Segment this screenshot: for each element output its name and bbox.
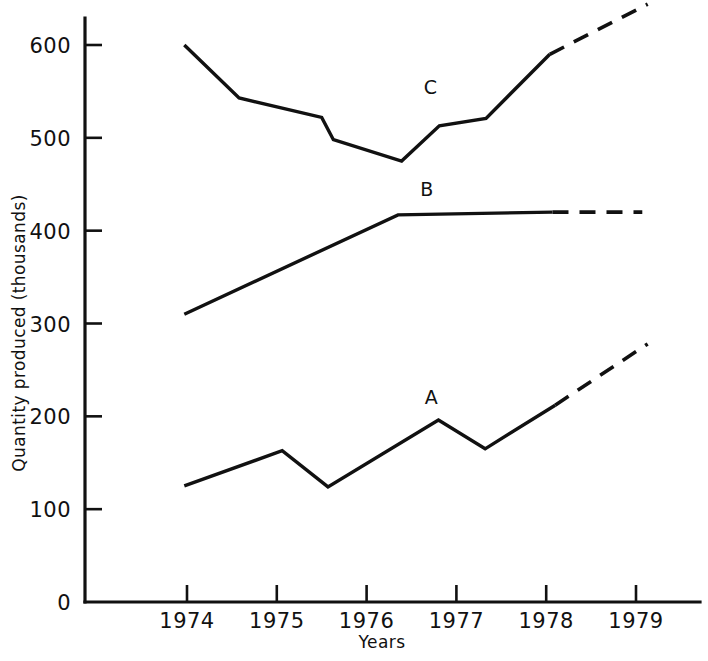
y-axis-tick-label: 0 bbox=[57, 591, 71, 615]
series-line-a bbox=[184, 405, 555, 487]
series-line-c bbox=[184, 45, 549, 161]
series-line-b bbox=[184, 212, 552, 314]
series-projection-c bbox=[550, 4, 648, 54]
y-axis-tick-label: 600 bbox=[29, 34, 71, 58]
axes-group bbox=[85, 18, 700, 602]
series-label-c: C bbox=[424, 76, 437, 98]
chart-container: 0100200300400500600 19741975197619771978… bbox=[0, 0, 708, 661]
x-axis-tick-label: 1976 bbox=[339, 609, 394, 633]
series-labels-group: ABC bbox=[420, 76, 438, 408]
y-axis-tick-labels: 0100200300400500600 bbox=[29, 34, 71, 615]
x-axis-tick-labels: 197419751976197719781979 bbox=[159, 609, 663, 633]
series-label-b: B bbox=[420, 178, 433, 200]
line-chart-svg: 0100200300400500600 19741975197619771978… bbox=[0, 0, 708, 661]
y-axis-tick-label: 300 bbox=[29, 313, 71, 337]
x-axis-tick-label: 1978 bbox=[518, 609, 573, 633]
y-axis-tick-label: 200 bbox=[29, 405, 71, 429]
y-axis-tick-label: 100 bbox=[29, 498, 71, 522]
series-lines-group bbox=[184, 4, 647, 487]
series-label-a: A bbox=[425, 386, 438, 408]
ticks-group bbox=[85, 45, 636, 602]
x-axis-tick-label: 1974 bbox=[159, 609, 214, 633]
x-axis-tick-label: 1979 bbox=[608, 609, 663, 633]
x-axis-tick-label: 1975 bbox=[249, 609, 304, 633]
series-projection-a bbox=[555, 344, 647, 405]
x-axis-tick-label: 1977 bbox=[429, 609, 484, 633]
y-axis-tick-label: 500 bbox=[29, 127, 71, 151]
y-axis-title: Quantity produced (thousands) bbox=[9, 194, 29, 471]
x-axis-title: Years bbox=[358, 632, 406, 652]
y-axis-tick-label: 400 bbox=[29, 220, 71, 244]
